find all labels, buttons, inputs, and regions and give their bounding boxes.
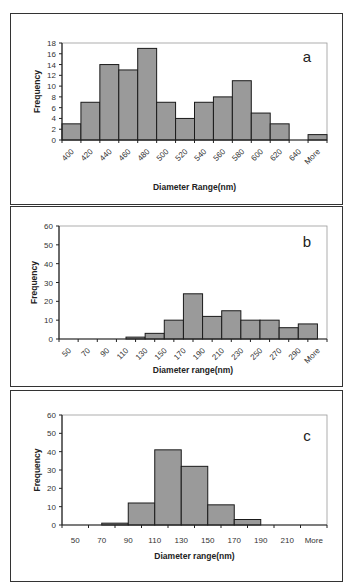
x-tick-label: 620	[268, 147, 284, 163]
histogram-bar	[100, 65, 119, 140]
x-tick-label: 150	[201, 536, 215, 545]
histogram-bar	[298, 324, 317, 339]
x-tick-label: 50	[60, 346, 73, 359]
x-tick-label: 150	[153, 346, 169, 362]
x-tick-label: More	[303, 147, 323, 167]
histogram-bar	[251, 113, 270, 140]
histogram-bar	[138, 48, 157, 140]
x-tick-label: 640	[287, 147, 303, 163]
y-axis-title: Frequency	[32, 448, 42, 491]
histogram-bar	[181, 466, 208, 525]
histogram-bar	[241, 320, 260, 339]
x-tick-label: 540	[193, 147, 209, 163]
x-axis-title: Diameter range(nm)	[153, 365, 233, 375]
histogram-bar	[270, 124, 289, 140]
y-axis-title: Frequency	[32, 70, 42, 113]
histogram-bar	[232, 81, 251, 140]
y-tick-label: 60	[47, 411, 56, 420]
x-tick-label: 520	[174, 147, 190, 163]
histogram-c: 0102030405060507090110130150170190210Mor…	[11, 391, 341, 580]
x-tick-label: 580	[230, 147, 246, 163]
x-tick-label: 440	[98, 147, 114, 163]
histogram-bar	[128, 503, 155, 525]
histogram-b: 0102030405060507090110130150170190210230…	[11, 207, 341, 385]
histogram-bar	[279, 328, 298, 339]
histogram-bar	[213, 97, 232, 140]
histogram-bar	[183, 294, 202, 339]
y-tick-label: 10	[44, 316, 53, 325]
panel-c: 0102030405060507090110130150170190210Mor…	[10, 390, 343, 582]
x-tick-label: 500	[155, 147, 171, 163]
x-axis-title: Diameter range(nm)	[154, 551, 234, 561]
y-tick-label: 10	[47, 503, 56, 512]
x-tick-label: 290	[287, 346, 303, 362]
x-tick-label: More	[303, 346, 323, 366]
y-tick-label: 12	[47, 71, 56, 80]
y-tick-label: 6	[52, 104, 57, 113]
x-tick-label: 420	[79, 147, 95, 163]
x-tick-label: 560	[211, 147, 227, 163]
panel-label: b	[303, 233, 311, 250]
panel-a: 0246810121416184004204404604805005205405…	[10, 13, 343, 205]
y-tick-label: 40	[44, 260, 53, 269]
y-tick-label: 20	[44, 297, 53, 306]
x-tick-label: 210	[281, 536, 295, 545]
x-tick-label: 190	[254, 536, 268, 545]
y-axis-title: Frequency	[29, 261, 39, 304]
y-tick-label: 0	[49, 335, 54, 344]
histogram-bar	[176, 118, 195, 140]
x-tick-label: 170	[228, 536, 242, 545]
x-tick-label: 600	[249, 147, 265, 163]
histogram-bar	[203, 316, 222, 339]
panel-label: c	[303, 427, 311, 444]
panel-b: 0102030405060507090110130150170190210230…	[10, 206, 343, 387]
x-tick-label: 110	[115, 346, 131, 362]
y-tick-label: 30	[47, 466, 56, 475]
y-tick-label: 30	[44, 279, 53, 288]
x-tick-label: 400	[60, 147, 76, 163]
x-tick-label: 170	[172, 346, 188, 362]
x-tick-label: 210	[210, 346, 226, 362]
x-tick-label: 130	[134, 346, 150, 362]
x-tick-label: 480	[136, 147, 152, 163]
x-tick-label: 250	[249, 346, 265, 362]
y-tick-label: 50	[47, 429, 56, 438]
x-tick-label: 130	[175, 536, 189, 545]
x-tick-label: 230	[229, 346, 245, 362]
y-tick-label: 0	[52, 136, 57, 145]
x-tick-label: 50	[71, 536, 80, 545]
y-tick-label: 0	[52, 521, 57, 530]
histogram-bar	[155, 450, 182, 525]
x-tick-label: 90	[99, 346, 112, 359]
x-tick-label: 190	[191, 346, 207, 362]
histogram-bar	[195, 102, 214, 140]
histogram-bar	[208, 505, 235, 525]
histogram-bar	[260, 320, 279, 339]
histogram-a: 0246810121416184004204404604805005205405…	[11, 14, 341, 203]
y-tick-label: 10	[47, 82, 56, 91]
y-tick-label: 16	[47, 50, 56, 59]
y-tick-label: 14	[47, 61, 56, 70]
x-tick-label: 70	[97, 536, 106, 545]
histogram-bar	[308, 135, 327, 140]
x-tick-label: 70	[79, 346, 92, 359]
histogram-bar	[234, 520, 261, 526]
histogram-bar	[157, 102, 176, 140]
histogram-bar	[164, 320, 183, 339]
y-tick-label: 60	[44, 222, 53, 231]
y-tick-label: 40	[47, 448, 56, 457]
histogram-bar	[119, 70, 138, 140]
y-tick-label: 8	[52, 93, 57, 102]
y-tick-label: 50	[44, 241, 53, 250]
panel-label: a	[303, 48, 312, 65]
histogram-bar	[145, 333, 164, 339]
histogram-bar	[81, 102, 100, 140]
y-tick-label: 18	[47, 39, 56, 48]
y-tick-label: 20	[47, 484, 56, 493]
y-tick-label: 2	[52, 125, 57, 134]
x-tick-label: 270	[268, 346, 284, 362]
y-tick-label: 4	[52, 114, 57, 123]
x-tick-label: 110	[148, 536, 161, 545]
x-tick-label: 90	[124, 536, 133, 545]
x-tick-label: More	[305, 536, 324, 545]
